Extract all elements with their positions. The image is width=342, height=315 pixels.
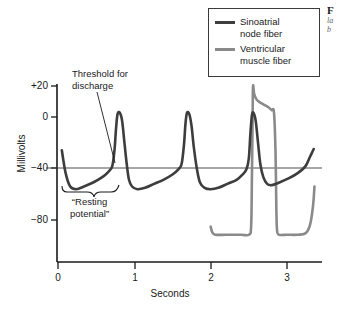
figure-caption-head: F [327,4,342,16]
y-tick-label-20: +20 [10,80,48,91]
threshold-leader-line [97,92,115,163]
x-tick-label-1: 1 [121,272,149,283]
legend-swatch-ventricular [215,48,235,51]
y-tick-label-neg80: −80 [10,214,48,225]
x-axis-title: Seconds [110,288,230,299]
y-axis-title: Millivolts [16,119,27,189]
figure-caption-line2: b [327,25,342,34]
chart-legend: Sinoatrial node fiber Ventricular muscle… [208,8,320,77]
legend-label-ventricular: Ventricular muscle fiber [240,43,291,66]
x-tick-label-2: 2 [197,272,225,283]
legend-label-ventricular-line1: Ventricular [240,43,291,55]
legend-label-sinoatrial-line1: Sinoatrial [240,16,282,28]
legend-item-ventricular-muscle-fiber: Ventricular muscle fiber [213,43,315,66]
legend-label-sinoatrial: Sinoatrial node fiber [240,16,282,39]
series-line-ventricular-muscle-fiber [211,85,315,235]
figure-caption-line1: la [327,16,342,25]
threshold-annotation-line1: Threshold for [72,68,128,80]
threshold-annotation: Threshold for discharge [72,68,128,91]
legend-item-sinoatrial-node-fiber: Sinoatrial node fiber [213,16,315,39]
resting-annotation-line2: potential” [70,208,109,220]
resting-annotation-line1: “Resting [70,196,109,208]
x-tick-label-0: 0 [44,272,72,283]
figure-container: +20 0 −40 −80 0 1 2 3 Millivolts Seconds… [0,0,342,315]
legend-label-ventricular-line2: muscle fiber [240,55,291,67]
legend-label-sinoatrial-line2: node fiber [240,28,282,40]
resting-potential-annotation: “Resting potential” [70,196,109,219]
figure-caption: F la b [327,4,342,34]
x-tick-label-3: 3 [273,272,301,283]
legend-swatch-sinoatrial [215,21,235,24]
threshold-annotation-line2: discharge [72,80,128,92]
